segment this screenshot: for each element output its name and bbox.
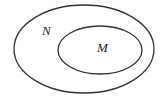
set-m-label: M xyxy=(96,40,109,55)
set-n-label: N xyxy=(41,23,52,38)
venn-diagram: N M xyxy=(0,0,160,105)
set-n-ellipse xyxy=(14,5,154,93)
